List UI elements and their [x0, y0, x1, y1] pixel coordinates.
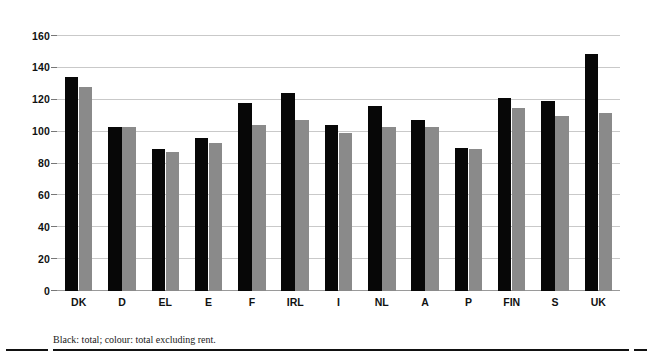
- bar-s-total-excluding-rent: [555, 116, 569, 291]
- bar-f-total: [238, 103, 252, 291]
- bar-series-container: [57, 36, 620, 291]
- x-tick-label-fin: FIN: [490, 297, 533, 308]
- y-tick-label-160: 160: [16, 31, 50, 42]
- bottom-rule-main-segment: [53, 349, 629, 351]
- x-tick-label-dk: DK: [57, 297, 100, 308]
- bar-s-total: [541, 101, 555, 291]
- bar-p-total: [455, 148, 469, 291]
- x-tick-label-p: P: [447, 297, 490, 308]
- bar-group-i: [325, 36, 353, 291]
- bar-group-dk: [65, 36, 93, 291]
- bar-dk-total: [65, 77, 79, 291]
- bar-a-total: [411, 120, 425, 291]
- bottom-rule-right-segment: [634, 349, 647, 351]
- bar-a-total-excluding-rent: [425, 127, 439, 291]
- bar-dk-total-excluding-rent: [79, 87, 93, 291]
- bar-d-total: [108, 127, 122, 291]
- x-tick-label-i: I: [317, 297, 360, 308]
- chart-footnote: Black: total; colour: total excluding re…: [53, 334, 216, 345]
- bar-group-d: [108, 36, 136, 291]
- x-tick-label-uk: UK: [577, 297, 620, 308]
- y-axis: 020406080100120140160: [10, 36, 50, 291]
- bar-d-total-excluding-rent: [122, 127, 136, 291]
- bar-i-total: [325, 125, 339, 291]
- y-tick-label-40: 40: [16, 222, 50, 233]
- bar-uk-total: [585, 54, 599, 291]
- bottom-rule-left-segment: [6, 349, 48, 351]
- bar-group-fin: [498, 36, 526, 291]
- y-tick-label-120: 120: [16, 94, 50, 105]
- bar-e-total-excluding-rent: [209, 143, 223, 291]
- bar-group-f: [238, 36, 266, 291]
- bar-el-total: [152, 149, 166, 291]
- bar-irl-total: [281, 93, 295, 291]
- bar-i-total-excluding-rent: [339, 133, 353, 291]
- bar-group-a: [411, 36, 439, 291]
- x-tick-label-d: D: [100, 297, 143, 308]
- bar-irl-total-excluding-rent: [295, 120, 309, 291]
- bar-nl-total: [368, 106, 382, 291]
- y-tick-label-100: 100: [16, 126, 50, 137]
- bar-nl-total-excluding-rent: [382, 127, 396, 291]
- bar-group-irl: [281, 36, 309, 291]
- x-tick-label-nl: NL: [360, 297, 403, 308]
- y-tick-label-140: 140: [16, 62, 50, 73]
- bar-group-nl: [368, 36, 396, 291]
- bar-fin-total: [498, 98, 512, 291]
- y-tick-label-20: 20: [16, 254, 50, 265]
- bar-group-uk: [585, 36, 613, 291]
- x-tick-label-a: A: [403, 297, 446, 308]
- bar-f-total-excluding-rent: [252, 125, 266, 291]
- bar-group-e: [195, 36, 223, 291]
- bar-e-total: [195, 138, 209, 291]
- y-tick-label-60: 60: [16, 190, 50, 201]
- x-tick-label-el: EL: [144, 297, 187, 308]
- x-tick-label-f: F: [230, 297, 273, 308]
- bar-el-total-excluding-rent: [166, 152, 180, 291]
- bar-fin-total-excluding-rent: [512, 108, 526, 291]
- figure: 020406080100120140160 DKDELEFIRLINLAPFIN…: [0, 0, 647, 356]
- bar-group-el: [152, 36, 180, 291]
- x-tick-label-s: S: [533, 297, 576, 308]
- bar-group-s: [541, 36, 569, 291]
- bar-uk-total-excluding-rent: [599, 113, 613, 292]
- y-tick-label-80: 80: [16, 158, 50, 169]
- bar-group-p: [455, 36, 483, 291]
- x-axis: DKDELEFIRLINLAPFINSUK: [57, 294, 620, 314]
- y-tick-label-0: 0: [16, 286, 50, 297]
- bar-p-total-excluding-rent: [469, 149, 483, 291]
- x-tick-label-e: E: [187, 297, 230, 308]
- x-tick-label-irl: IRL: [274, 297, 317, 308]
